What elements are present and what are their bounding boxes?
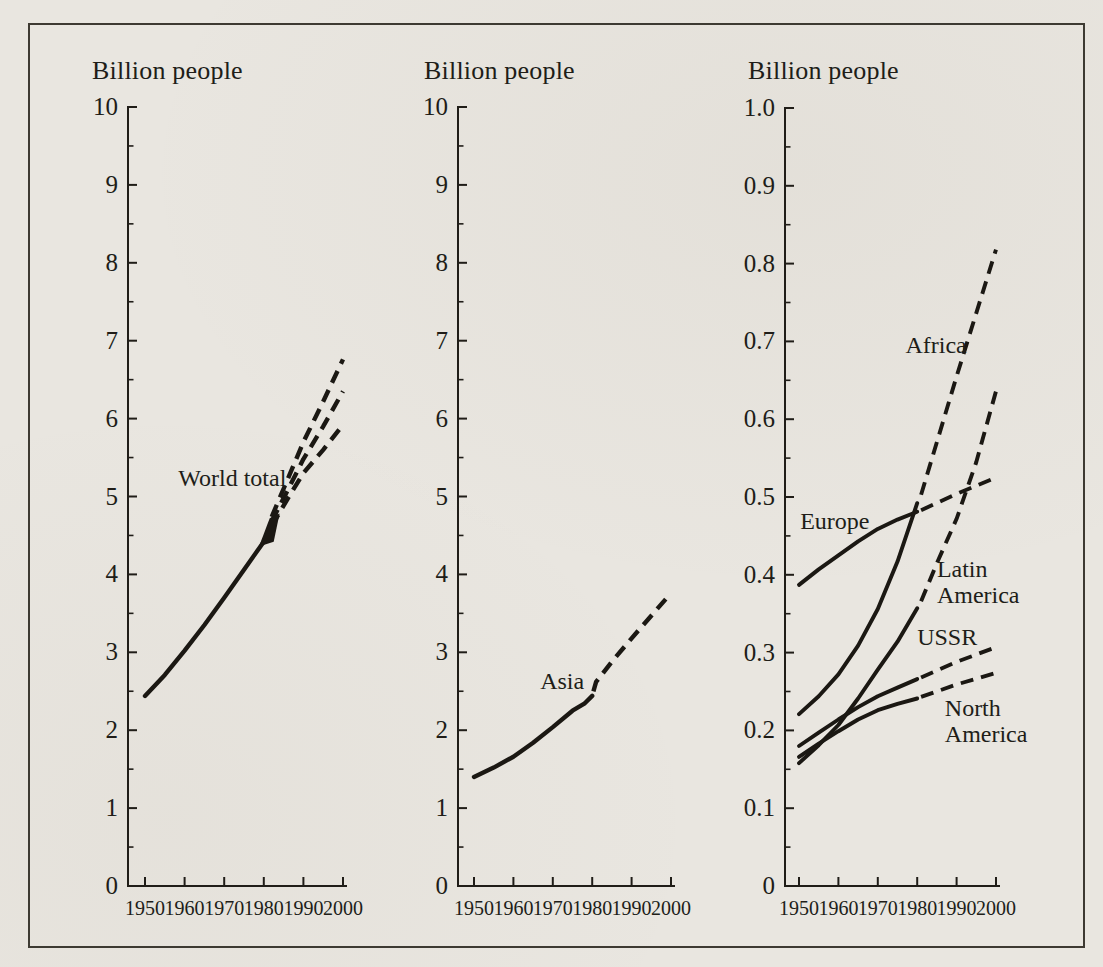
x-tick-label: 2000 bbox=[976, 897, 1016, 919]
chart-world-total: 012345678910195019601970198019902000Worl… bbox=[93, 93, 363, 919]
africa-projection-1 bbox=[921, 250, 996, 495]
x-axis-asia: 195019601970198019902000 bbox=[454, 877, 691, 919]
y-tick-label: 2 bbox=[106, 716, 119, 743]
x-tick-label: 1950 bbox=[454, 897, 494, 919]
y-tick-label: 8 bbox=[106, 249, 119, 276]
y-tick-label: 0 bbox=[106, 872, 119, 899]
y-tick-label: 7 bbox=[436, 327, 449, 354]
y-tick-label: 4 bbox=[436, 560, 449, 587]
y-tick-label: 8 bbox=[436, 249, 449, 276]
x-tick-label: 1970 bbox=[858, 897, 898, 919]
europe-projection-1 bbox=[921, 478, 996, 511]
x-tick-label: 1990 bbox=[612, 897, 652, 919]
x-tick-label: 1960 bbox=[818, 897, 858, 919]
y-axis-asia: 012345678910 bbox=[423, 93, 467, 899]
x-tick-label: 1980 bbox=[572, 897, 612, 919]
asia-line-solid bbox=[474, 696, 592, 777]
x-tick-label: 1990 bbox=[283, 897, 323, 919]
asia-projection-1 bbox=[593, 593, 671, 691]
africa-label: Africa bbox=[905, 332, 967, 358]
y-tick-label: 7 bbox=[106, 327, 119, 354]
y-tick-label: 0.3 bbox=[744, 639, 775, 666]
europe-label: Europe bbox=[800, 508, 869, 534]
y-tick-label: 1 bbox=[436, 794, 449, 821]
x-tick-label: 1980 bbox=[897, 897, 937, 919]
africa-line-solid bbox=[799, 503, 917, 714]
y-tick-label: 0.5 bbox=[744, 483, 775, 510]
y-tick-label: 0 bbox=[763, 872, 776, 899]
y-tick-label: 0.2 bbox=[744, 716, 775, 743]
y-tick-label: 10 bbox=[93, 93, 118, 120]
y-axis-regions: 00.10.20.30.40.50.60.70.80.91.0 bbox=[744, 94, 794, 899]
x-tick-label: 1990 bbox=[937, 897, 977, 919]
y-tick-label: 6 bbox=[106, 405, 119, 432]
ussr-label: USSR bbox=[917, 624, 977, 650]
y-tick-label: 1 bbox=[106, 794, 119, 821]
chart-asia: 012345678910195019601970198019902000Asia bbox=[423, 93, 691, 919]
north-america-projection-1 bbox=[921, 673, 996, 697]
x-tick-label: 1950 bbox=[779, 897, 819, 919]
asia-label: Asia bbox=[540, 668, 584, 694]
x-tick-label: 1960 bbox=[165, 897, 205, 919]
y-tick-label: 0.7 bbox=[744, 327, 775, 354]
y-tick-label: 6 bbox=[436, 405, 449, 432]
axis-spine-world-total bbox=[128, 107, 347, 886]
y-tick-label: 2 bbox=[436, 716, 449, 743]
y-tick-label: 0.1 bbox=[744, 794, 775, 821]
ussr-line-solid bbox=[799, 679, 917, 746]
world-total-projection-2 bbox=[272, 391, 343, 521]
y-tick-label: 9 bbox=[106, 171, 119, 198]
axis-spine-regions bbox=[785, 108, 1000, 886]
y-tick-label: 0 bbox=[436, 872, 449, 899]
x-tick-label: 2000 bbox=[651, 897, 691, 919]
y-tick-label: 9 bbox=[436, 171, 449, 198]
x-tick-label: 1950 bbox=[125, 897, 165, 919]
x-axis-world-total: 195019601970198019902000 bbox=[125, 877, 363, 919]
x-axis-regions: 195019601970198019902000 bbox=[779, 877, 1016, 919]
world-total-branch-wedge bbox=[259, 514, 280, 547]
world-total-line-solid bbox=[145, 542, 264, 696]
ussr-projection-1 bbox=[921, 647, 996, 677]
y-tick-label: 3 bbox=[106, 638, 119, 665]
x-tick-label: 1980 bbox=[244, 897, 284, 919]
y-tick-label: 3 bbox=[436, 638, 449, 665]
world-total-label: World total bbox=[178, 465, 286, 491]
y-tick-label: 10 bbox=[423, 93, 448, 120]
north-america-label: NorthAmerica bbox=[945, 695, 1028, 747]
charts-canvas: 012345678910195019601970198019902000Worl… bbox=[0, 0, 1103, 967]
x-tick-label: 1970 bbox=[533, 897, 573, 919]
scanned-page: Billion people Billion people Billion pe… bbox=[0, 0, 1103, 967]
x-tick-label: 1960 bbox=[493, 897, 533, 919]
y-axis-world-total: 012345678910 bbox=[93, 93, 137, 899]
x-tick-label: 1970 bbox=[204, 897, 244, 919]
y-tick-label: 4 bbox=[106, 560, 119, 587]
x-tick-label: 2000 bbox=[323, 897, 363, 919]
y-tick-label: 0.6 bbox=[744, 405, 775, 432]
y-tick-label: 0.9 bbox=[744, 172, 775, 199]
y-tick-label: 0.4 bbox=[744, 561, 776, 588]
latin-america-label: LatinAmerica bbox=[937, 556, 1020, 608]
y-tick-label: 0.8 bbox=[744, 250, 775, 277]
chart-regions: 00.10.20.30.40.50.60.70.80.91.0195019601… bbox=[744, 94, 1028, 919]
y-tick-label: 5 bbox=[436, 483, 449, 510]
y-tick-label: 5 bbox=[106, 483, 119, 510]
y-tick-label: 1.0 bbox=[744, 94, 775, 121]
